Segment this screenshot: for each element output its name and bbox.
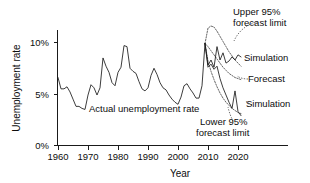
annotation-actual-rate: Actual unemployment rate [89,103,199,114]
annotation-forecast: Forecast [248,73,285,84]
annotation-upper-limit-line1: Upper 95% [233,6,281,17]
x-tick-label-2000: 2000 [167,151,188,162]
x-axis-title: Year [170,168,191,179]
annotation-simulation-lower: Simulation [246,98,290,109]
y-axis-title: Unemployment rate [11,44,22,132]
x-tick-label-1970: 1970 [77,151,98,162]
y-tick-label-0: 0% [35,140,49,151]
chart-canvas: 10% 5% 0% 1960 1970 1980 1990 2000 2010 … [0,0,310,183]
upper-95-limit-path [205,26,241,66]
x-tick-label-2020: 2020 [227,151,248,162]
annotation-lower-limit-line2: forecast limit [196,127,250,138]
annotation-simulation-upper: Simulation [244,52,288,63]
x-tick-label-2010: 2010 [197,151,218,162]
actual-rate-path [58,44,205,110]
unemployment-forecast-chart: 10% 5% 0% 1960 1970 1980 1990 2000 2010 … [0,0,310,183]
x-tick-label-1980: 1980 [107,151,128,162]
annotation-upper-limit-line2: forecast limit [233,17,287,28]
y-tick-label-10: 10% [30,37,50,48]
x-tick-label-1960: 1960 [47,151,68,162]
y-tick-label-5: 5% [35,89,49,100]
x-tick-label-1990: 1990 [137,151,158,162]
simulation-lower-path [205,44,241,116]
simulation-upper-path [205,44,241,68]
forecast-leader [237,76,248,79]
annotation-lower-limit-line1: Lower 95% [200,116,248,127]
